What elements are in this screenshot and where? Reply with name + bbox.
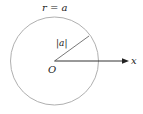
origin-label: O [48, 64, 56, 75]
radius-label: |a| [56, 38, 67, 49]
equation-label: r = a [42, 2, 68, 13]
polar-circle-diagram: r = a |a| O x [0, 0, 143, 114]
x-axis-label: x [131, 55, 137, 66]
arrow-head-icon [122, 58, 129, 63]
